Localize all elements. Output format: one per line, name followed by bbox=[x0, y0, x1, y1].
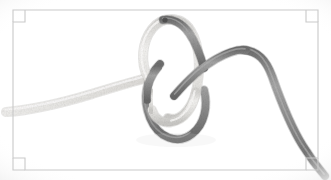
photo-vignette bbox=[0, 0, 331, 180]
knot-photo-figure: Knot photograph Close-up photograph of a… bbox=[0, 0, 331, 180]
knot-illustration bbox=[0, 0, 331, 180]
